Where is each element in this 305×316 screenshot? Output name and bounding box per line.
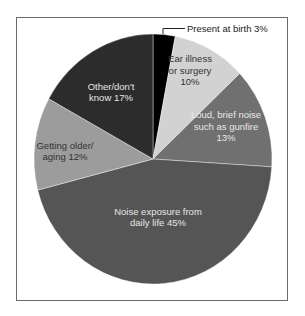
pie-chart: Ear illnessor surgery10%Loud, brief nois… <box>0 0 305 316</box>
callout: Present at birth 3% <box>163 23 268 34</box>
callout-label: Present at birth 3% <box>187 23 268 34</box>
callout-leader-line <box>163 29 185 35</box>
slice-label: Getting older/aging 12% <box>36 140 93 163</box>
slice-label: Other/don'tknow 17% <box>88 81 135 104</box>
